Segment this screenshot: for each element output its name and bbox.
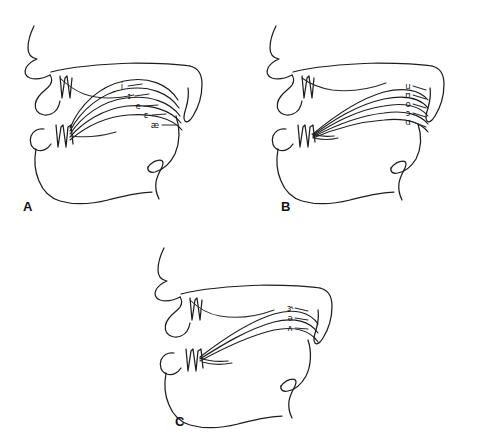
epiglottis-a	[148, 160, 163, 199]
panel-letter-b: B	[281, 200, 291, 213]
leader-script-a	[413, 122, 426, 127]
vowel-label-ash: æ	[151, 120, 159, 130]
epiglottis-c	[281, 379, 296, 418]
tongue-arc-i	[70, 80, 178, 128]
epiglottis-b	[391, 161, 406, 200]
hard-palate-a	[51, 63, 190, 72]
vowel-label-epsilon: ɛ	[144, 110, 149, 120]
tongue-underside-b	[314, 138, 338, 140]
tongue-arc-open-o	[313, 112, 428, 137]
vowel-label-i: i	[121, 81, 123, 91]
hard-palate-c	[181, 285, 320, 294]
leader-epsilon	[152, 114, 166, 115]
panel-letter-c: C	[175, 415, 185, 428]
panel-letter-a: A	[23, 200, 33, 213]
jaw-neck-outline-a	[35, 149, 152, 204]
hard-palate-b	[293, 63, 432, 72]
lower-lip-a	[30, 129, 51, 151]
leader-rhotic-schwa	[295, 308, 308, 311]
lower-lip-b	[272, 129, 293, 151]
vowel-label-rhotic-schwa: ɝ	[287, 303, 294, 313]
leader-e	[144, 105, 158, 106]
leader-small-cap-i	[135, 94, 149, 96]
leader-u	[413, 86, 426, 90]
velum-uvula-b	[426, 66, 444, 122]
tongue-arc-wedge	[200, 329, 318, 362]
tongue-arc-upsilon	[313, 97, 428, 135]
alveolar-ridge-b	[302, 78, 386, 91]
nose-profile-c	[155, 248, 180, 301]
vowel-label-script-a: ɑ	[405, 117, 410, 127]
vowel-label-e: e	[135, 101, 140, 111]
lower-incisors-c	[186, 349, 203, 371]
vowel-label-small-cap-i: ɪ	[127, 91, 130, 101]
leader-schwa	[295, 318, 308, 320]
nose-profile-a	[25, 26, 50, 79]
vowel-label-wedge: ʌ	[287, 323, 292, 333]
panel-b-back-vowels: u ʊ o ɔ ɑ	[250, 6, 477, 216]
leader-i	[128, 84, 142, 86]
upper-lip-b	[277, 75, 302, 115]
jaw-neck-outline-b	[277, 149, 394, 204]
panel-a-front-vowels: i ɪ e ɛ æ	[8, 6, 240, 216]
tongue-arc-epsilon	[70, 106, 181, 137]
alveolar-ridge-c	[190, 300, 274, 317]
tongue-arc-u	[313, 90, 428, 134]
velum-uvula-c	[314, 288, 332, 344]
tongue-arc-ash	[70, 115, 182, 140]
vowel-labels-c: ɝ ə ʌ	[287, 303, 308, 333]
tongue-arc-schwa	[200, 320, 318, 359]
nose-profile-b	[267, 26, 292, 79]
velum-uvula-a	[184, 66, 202, 122]
upper-lip-a	[35, 75, 60, 115]
panel-c-central-vowels: ɝ ə ʌ	[138, 228, 365, 440]
tongue-underside-c	[202, 362, 232, 364]
vowel-label-schwa: ə	[287, 313, 292, 323]
lower-lip-c	[160, 353, 181, 375]
upper-lip-c	[165, 297, 190, 337]
figure-root: i ɪ e ɛ æ	[0, 0, 477, 444]
